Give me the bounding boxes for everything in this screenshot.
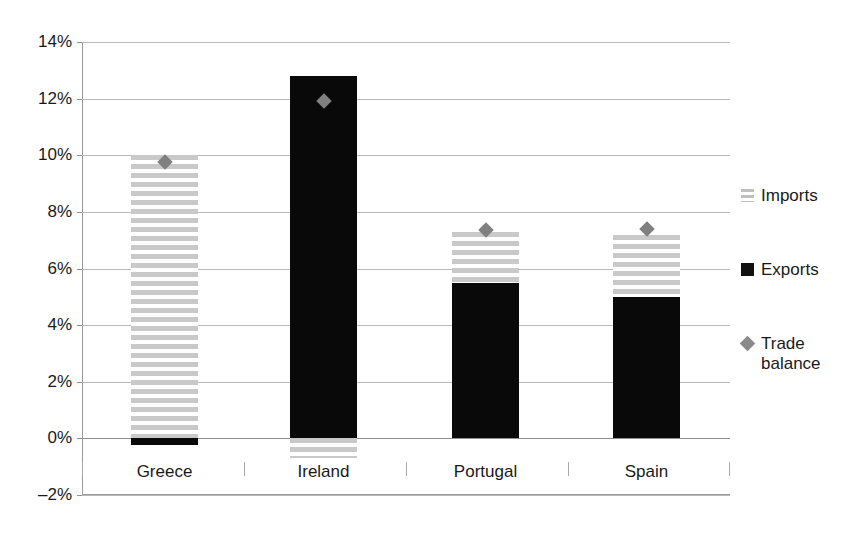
trade-balance-diamond-icon (740, 336, 756, 352)
x-axis-separator-tick (244, 462, 245, 476)
bar-segment-exports-spain[interactable] (613, 297, 680, 439)
x-axis-separator-tick (568, 462, 569, 476)
y-tick-mark (77, 269, 82, 270)
x-tick-label-ireland: Ireland (298, 462, 350, 482)
x-axis-separator-tick (82, 462, 83, 476)
legend-label-exports: Exports (761, 260, 819, 280)
y-tick-mark (77, 42, 82, 43)
y-tick-label: 10% (8, 145, 72, 165)
legend-item-trade-balance: Trade balance (741, 334, 823, 374)
legend-label-trade-balance: Trade balance (761, 334, 823, 374)
x-axis-separator-tick (406, 462, 407, 476)
y-tick-label: 8% (8, 202, 72, 222)
y-tick-mark (77, 382, 82, 383)
bar-group-greece[interactable] (131, 42, 198, 495)
y-axis-tick-labels: 14%12%10%8%6%4%2%0%–2% (0, 42, 72, 495)
bar-segment-exports-ireland[interactable] (290, 76, 357, 438)
y-tick-label: 6% (8, 259, 72, 279)
y-tick-label: 14% (8, 32, 72, 52)
exports-swatch-icon (741, 263, 754, 276)
y-tick-mark (77, 212, 82, 213)
bar-group-spain[interactable] (613, 42, 680, 495)
y-tick-label: –2% (8, 485, 72, 505)
bar-segment-exports-portugal[interactable] (452, 283, 519, 439)
y-tick-label: 0% (8, 428, 72, 448)
plot-area (82, 42, 730, 495)
legend-item-exports: Exports (741, 260, 819, 280)
y-tick-label: 2% (8, 372, 72, 392)
y-tick-mark (77, 155, 82, 156)
x-tick-label-spain: Spain (625, 462, 668, 482)
bar-segment-imports-portugal[interactable] (452, 232, 519, 283)
imports-swatch-icon (741, 189, 754, 202)
x-tick-label-greece: Greece (137, 462, 193, 482)
y-tick-label: 4% (8, 315, 72, 335)
bar-group-ireland[interactable] (290, 42, 357, 495)
x-axis-category-labels: GreeceIrelandPortugalSpain (82, 462, 730, 492)
y-tick-mark (77, 495, 82, 496)
bar-segment-imports-greece[interactable] (131, 155, 198, 438)
bar-segment-imports-spain[interactable] (613, 235, 680, 297)
legend-label-imports: Imports (761, 186, 818, 206)
x-tick-label-portugal: Portugal (454, 462, 517, 482)
x-axis-separator-tick (729, 462, 730, 476)
y-tick-mark (77, 99, 82, 100)
gridline-–2 (82, 495, 730, 496)
chart-figure: 14%12%10%8%6%4%2%0%–2% GreeceIrelandPort… (0, 0, 849, 533)
bar-segment-imports-ireland[interactable] (290, 438, 357, 458)
legend-item-imports: Imports (741, 186, 818, 206)
y-tick-mark (77, 325, 82, 326)
y-tick-mark (77, 438, 82, 439)
y-tick-label: 12% (8, 89, 72, 109)
bar-group-portugal[interactable] (452, 42, 519, 495)
bar-segment-exports-greece[interactable] (131, 438, 198, 445)
